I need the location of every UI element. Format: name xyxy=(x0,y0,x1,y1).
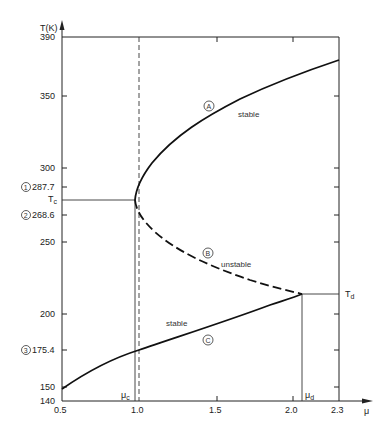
mu-d-label: μd xyxy=(305,390,314,401)
stable-c-label: stable xyxy=(166,319,188,328)
y-axis-arrow-icon xyxy=(60,20,65,30)
x-tick-15: 1.5 xyxy=(209,405,222,415)
x-tick-05: 0.5 xyxy=(54,405,67,415)
circle-b-label: B xyxy=(206,250,211,257)
x-tick-labels: 0.5 1.0 1.5 2.0 2.3 μ xyxy=(54,405,369,416)
branch-b-unstable xyxy=(135,200,302,294)
curves xyxy=(62,60,339,389)
marker-2: 2 xyxy=(24,212,28,219)
x-tick-10: 1.0 xyxy=(131,405,144,415)
circle-c-label: C xyxy=(206,337,211,344)
y-tick-300: 300 xyxy=(40,163,55,173)
y-tick-268: 268.6 xyxy=(32,210,55,220)
x-tick-23: 2.3 xyxy=(331,405,344,415)
axes xyxy=(60,20,374,404)
reference-lines xyxy=(62,37,339,401)
unstable-b-label: unstable xyxy=(221,260,252,269)
y-tick-250: 250 xyxy=(40,237,55,247)
x-axis-label: μ xyxy=(364,406,369,416)
y-tick-140: 140 xyxy=(40,396,55,406)
y-tick-200: 200 xyxy=(40,309,55,319)
x-axis-arrow-icon xyxy=(362,399,373,404)
marker-1: 1 xyxy=(24,184,28,191)
branch-annotations: A stable B unstable stable C xyxy=(166,101,260,345)
stable-a-label: stable xyxy=(238,110,260,119)
y-tick-labels: 390 350 300 1 287.7 Tc 2 268.6 250 200 3… xyxy=(22,32,58,406)
bifurcation-chart: T(K) 390 350 300 1 287.7 Tc 2 268.6 250 … xyxy=(0,0,392,431)
y-tick-287: 287.7 xyxy=(32,182,55,192)
y-tick-175: 175.4 xyxy=(32,345,55,355)
marker-3: 3 xyxy=(24,347,28,354)
td-label: Td xyxy=(345,289,355,300)
y-tick-390: 390 xyxy=(40,32,55,42)
y-tick-350: 350 xyxy=(40,91,55,101)
y-ticks xyxy=(62,96,339,387)
circle-a-label: A xyxy=(207,103,212,110)
branch-a-stable xyxy=(135,60,339,200)
x-tick-20: 2.0 xyxy=(285,405,298,415)
branch-c-stable xyxy=(62,294,302,389)
mu-c-label: μc xyxy=(121,390,130,401)
tc-label: Tc xyxy=(48,194,58,205)
y-tick-150: 150 xyxy=(40,382,55,392)
